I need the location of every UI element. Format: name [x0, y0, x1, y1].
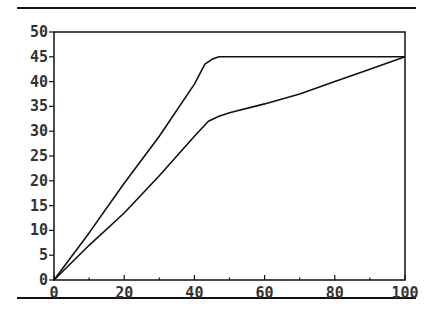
plot-frame	[54, 32, 405, 280]
y-tick-label: 5	[39, 246, 48, 264]
x-tick-label: 20	[115, 284, 133, 302]
y-tick-label: 40	[30, 73, 48, 91]
y-tick-label: 10	[30, 221, 48, 239]
y-tick-label: 20	[30, 172, 48, 190]
x-tick-label: 80	[326, 284, 344, 302]
y-tick-label: 25	[30, 147, 48, 165]
y-tick-label: 45	[30, 48, 48, 66]
series-line-lower	[54, 57, 405, 280]
x-tick-label: 100	[391, 284, 418, 302]
line-chart: 05101520253035404550 020406080100	[0, 0, 435, 326]
x-tick-label: 60	[256, 284, 274, 302]
series-line-upper	[54, 57, 405, 280]
y-tick-label: 35	[30, 97, 48, 115]
y-tick-label: 30	[30, 122, 48, 140]
x-tick-label: 40	[185, 284, 203, 302]
y-tick-label: 50	[30, 23, 48, 41]
x-tick-label: 0	[49, 284, 58, 302]
y-tick-label: 0	[39, 271, 48, 289]
data-series	[54, 57, 405, 280]
y-tick-label: 15	[30, 197, 48, 215]
y-axis: 05101520253035404550	[30, 23, 54, 289]
